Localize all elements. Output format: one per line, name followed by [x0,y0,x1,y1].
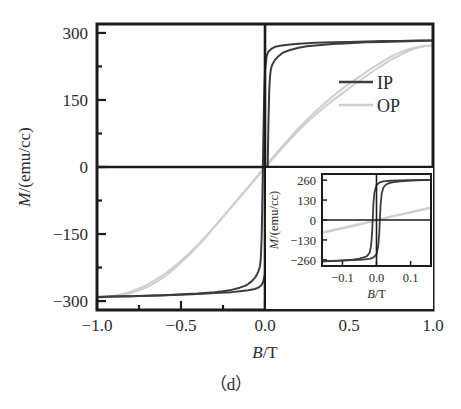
x-tick-label: 1.0 [422,316,443,335]
y-tick-label: 300 [63,24,89,43]
inset-x-tick-label: 0.0 [369,271,385,285]
y-tick-label: −300 [53,292,88,311]
inset-y-tick-label: 0 [310,214,316,228]
inset-x-axis-title: B/T [367,287,386,301]
y-tick-label: 0 [80,158,89,177]
x-tick-label: 0.0 [254,316,275,335]
y-tick-label: −150 [53,225,88,244]
inset-plot: −0.10.00.1 −260−1300130260 B/T M/(emu/cc… [266,168,433,309]
main-x-axis-title: B/T [252,343,278,362]
inset-x-tick-label: −0.1 [331,271,354,285]
main-y-axis-title: M/(emu/cc) [15,127,34,207]
inset-y-axis-title: M/(emu/cc) [267,191,281,250]
inset-x-tick-labels: −0.10.00.1 [331,271,418,285]
hysteresis-figure: −1.0−0.50.00.51.0 −300−1500150300 B/T M/… [0,0,461,409]
x-tick-label: 0.5 [338,316,359,335]
figure-caption: （d） [210,375,253,394]
legend-label-ip: IP [377,73,393,93]
legend-label-op: OP [377,96,400,116]
x-tick-label: −0.5 [166,316,197,335]
y-tick-label: 150 [63,91,89,110]
x-tick-label: −1.0 [82,316,113,335]
inset-x-tick-label: 0.1 [403,271,419,285]
inset-y-tick-label: −130 [290,234,316,248]
inset-y-tick-label: −260 [290,254,316,268]
inset-y-tick-label: 130 [297,194,316,208]
inset-y-tick-label: 260 [297,174,316,188]
